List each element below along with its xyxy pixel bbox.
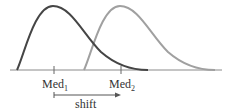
- med1-label: Med1: [42, 77, 68, 93]
- med2-label: Med2: [109, 77, 135, 93]
- shift-arrow-head-icon: [115, 93, 121, 98]
- shift-diagram: Med1 Med2 shift: [0, 0, 228, 111]
- distribution-curve-2: [84, 6, 215, 70]
- shift-label: shift: [75, 97, 97, 111]
- distribution-curve-1: [17, 6, 148, 70]
